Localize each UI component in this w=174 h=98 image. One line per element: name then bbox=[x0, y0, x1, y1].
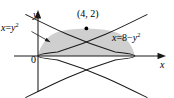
left-curve-pointer-line bbox=[32, 32, 48, 41]
intersection-point-marker bbox=[85, 27, 89, 31]
y-axis-label: y bbox=[33, 10, 37, 20]
left-curve-equation-label: x=y2 bbox=[1, 22, 19, 33]
right-curve-exponent: 2 bbox=[137, 31, 140, 38]
right-curve-equation-label: x=8−y2 bbox=[112, 32, 140, 43]
origin-label: 0 bbox=[31, 55, 36, 65]
intersection-point-label: (4, 2) bbox=[77, 9, 99, 19]
figure-container: x=y2 x=8−y2 (4, 2) x y 0 bbox=[0, 0, 174, 98]
left-curve-exponent: 2 bbox=[16, 21, 19, 28]
x-axis-label: x bbox=[160, 60, 164, 70]
